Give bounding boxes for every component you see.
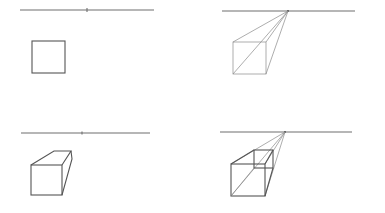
box-edge-top-right bbox=[265, 150, 273, 164]
panel-step-1 bbox=[20, 8, 154, 73]
panel-step-3 bbox=[21, 132, 150, 196]
panel-step-2 bbox=[222, 10, 355, 74]
convergence-line bbox=[266, 11, 288, 42]
box-top-face bbox=[31, 151, 71, 165]
front-square bbox=[32, 41, 65, 73]
perspective-diagram bbox=[0, 0, 385, 213]
front-square bbox=[231, 164, 265, 196]
box-edge-top-left bbox=[231, 150, 254, 164]
front-square bbox=[233, 42, 266, 74]
panel-step-4 bbox=[220, 131, 352, 196]
convergence-line bbox=[233, 11, 288, 74]
convergence-line bbox=[233, 11, 288, 42]
convergence-line bbox=[266, 11, 288, 74]
box-edge-bottom-left bbox=[231, 168, 254, 196]
box-edge-bottom-right bbox=[265, 168, 273, 196]
box-front-face bbox=[31, 165, 62, 195]
